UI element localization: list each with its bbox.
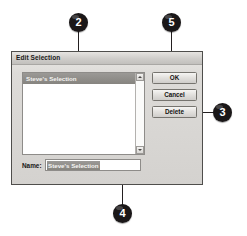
- callout-badge-4: 4: [113, 204, 132, 223]
- cancel-button[interactable]: Cancel: [152, 89, 197, 101]
- scroll-down-arrow-icon: [138, 149, 142, 151]
- listbox-scrollbar[interactable]: [135, 73, 144, 154]
- callout-badge-5: 5: [162, 13, 181, 32]
- name-input-value: Steve's Selection: [47, 161, 100, 170]
- callout-badge-2: 2: [69, 13, 88, 32]
- name-field-label: Name:: [22, 162, 42, 169]
- figure-canvas: 2 5 3 4 Edit Selection Steve's Selection: [0, 0, 247, 236]
- selection-listbox[interactable]: Steve's Selection: [22, 72, 145, 155]
- name-input[interactable]: Steve's Selection: [45, 159, 141, 171]
- scroll-up-button[interactable]: [136, 73, 144, 81]
- dialog-titlebar: Edit Selection: [12, 52, 202, 65]
- listbox-empty-area[interactable]: [23, 84, 144, 154]
- scrollbar-track[interactable]: [136, 81, 144, 146]
- scroll-down-button[interactable]: [136, 146, 144, 154]
- dialog-title: Edit Selection: [16, 54, 60, 61]
- dialog-body: Edit Selection Steve's Selection OK: [12, 52, 202, 184]
- scroll-up-arrow-icon: [138, 76, 142, 78]
- list-item[interactable]: Steve's Selection: [23, 73, 144, 84]
- ok-button[interactable]: OK: [152, 72, 197, 84]
- callout-badge-3: 3: [213, 103, 232, 122]
- delete-button[interactable]: Delete: [152, 106, 197, 118]
- edit-selection-dialog: Edit Selection Steve's Selection OK: [11, 51, 203, 185]
